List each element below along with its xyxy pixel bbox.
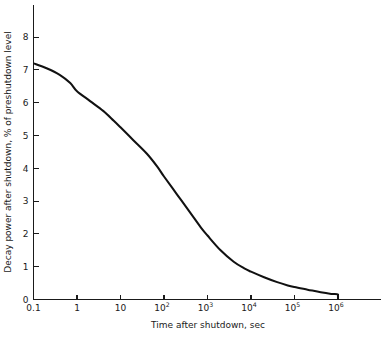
y-tick-label: 4 [23, 164, 29, 174]
x-tick-label: 102 [154, 301, 169, 313]
y-tick-label: 7 [23, 65, 29, 75]
x-tick-label: 10 [115, 303, 127, 313]
y-tick-label: 3 [23, 196, 29, 206]
x-tick-label: 104 [241, 301, 256, 313]
x-tick-label: 105 [285, 301, 300, 313]
y-axis-tick-labels: 012345678 [23, 32, 29, 304]
y-tick-label: 1 [23, 262, 29, 272]
x-axis-tick-labels: 0.1110102103104105106 [26, 301, 343, 313]
axis-lines [33, 5, 381, 300]
y-tick-label: 5 [23, 131, 29, 141]
decay-power-chart-figure: 0.1110102103104105106 012345678 Time aft… [0, 0, 385, 339]
y-tick-label: 2 [23, 229, 29, 239]
y-tick-label: 6 [23, 98, 29, 108]
chart-plot-area: 0.1110102103104105106 012345678 Time aft… [0, 0, 385, 339]
x-axis-ticks [34, 295, 339, 300]
x-tick-label: 1 [74, 303, 80, 313]
y-axis-ticks [34, 37, 39, 267]
x-tick-label: 106 [328, 301, 343, 313]
y-axis-title: Decay power after shutdown, % of preshut… [3, 31, 13, 272]
x-axis-title: Time after shutdown, sec [150, 320, 265, 330]
y-tick-label: 0 [23, 295, 29, 305]
x-tick-label: 103 [198, 301, 213, 313]
y-tick-label: 8 [23, 32, 29, 42]
decay-power-curve [34, 63, 339, 299]
